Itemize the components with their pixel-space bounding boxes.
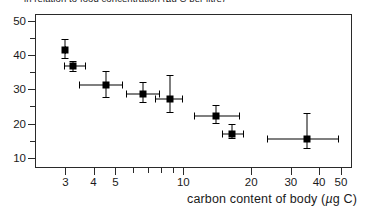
x-error-cap [126,91,127,98]
x-error-cap [338,136,339,143]
y-tick-major [28,55,35,56]
y-error-bar [169,75,170,112]
x-error-cap [79,82,80,89]
x-tick-label: 4 [90,176,96,188]
data-marker [213,112,220,119]
y-tick-minor [30,72,35,73]
x-error-cap [222,130,223,137]
x-tick-major [341,168,342,175]
y-tick-minor [30,38,35,39]
y-error-cap [103,97,110,98]
figure-root: in relation to food concentration (µg C … [0,0,365,216]
y-error-cap [213,123,220,124]
y-tick-label: 30 [13,83,26,95]
x-axis-title-prefix: carbon content of body ( [187,192,325,206]
plot-area: 1020304050 3451020304050 [35,14,352,168]
x-tick-minor [148,168,149,173]
y-error-cap [103,71,110,72]
x-tick-major [319,168,320,175]
x-axis-title-suffix: g C) [333,192,357,206]
x-tick-label: 50 [334,176,347,188]
data-marker [166,96,173,103]
y-tick-major [28,89,35,90]
x-error-cap [239,112,240,119]
y-tick-label: 50 [13,15,26,27]
y-error-cap [166,75,173,76]
y-tick-major [28,158,35,159]
x-tick-label: 20 [245,176,258,188]
y-error-cap [139,82,146,83]
x-tick-label: 30 [284,176,297,188]
data-marker [229,130,236,137]
x-tick-major [65,168,66,175]
y-tick-label: 40 [13,49,26,61]
x-error-cap [155,96,156,103]
data-marker [70,63,77,70]
x-tick-minor [173,168,174,173]
x-tick-major [94,168,95,175]
y-error-cap [139,102,146,103]
data-marker [103,82,110,89]
x-error-cap [159,91,160,98]
x-tick-major [291,168,292,175]
x-error-cap [64,63,65,70]
y-error-cap [70,71,77,72]
x-error-bar [79,85,122,86]
y-error-cap [62,58,69,59]
x-error-cap [243,130,244,137]
x-error-bar [267,139,338,140]
y-error-cap [304,113,311,114]
x-tick-major [251,168,252,175]
data-marker [304,136,311,143]
x-error-cap [85,63,86,70]
x-tick-label: 40 [313,176,326,188]
x-tick-minor [161,168,162,173]
x-error-cap [194,112,195,119]
y-tick-minor [30,141,35,142]
x-error-cap [267,136,268,143]
y-error-cap [166,112,173,113]
y-error-cap [62,39,69,40]
x-axis-title-mu: µ [325,192,332,206]
data-marker [139,91,146,98]
y-tick-label: 20 [13,118,26,130]
x-tick-major [115,168,116,175]
y-tick-minor [30,106,35,107]
x-tick-label: 3 [62,176,68,188]
y-tick-label: 10 [13,152,26,164]
x-error-cap [182,96,183,103]
y-error-cap [213,105,220,106]
x-error-cap [122,82,123,89]
y-error-cap [229,138,236,139]
y-tick-major [28,21,35,22]
x-axis-title: carbon content of body (µg C) [0,192,357,206]
y-error-cap [229,124,236,125]
x-tick-label: 5 [112,176,118,188]
x-tick-label: 10 [177,176,190,188]
x-tick-major [183,168,184,175]
top-caption: in relation to food concentration (µg C … [24,0,225,2]
y-error-cap [304,148,311,149]
y-error-bar [307,113,308,148]
data-marker [62,46,69,53]
x-tick-minor [133,168,134,173]
y-tick-major [28,124,35,125]
